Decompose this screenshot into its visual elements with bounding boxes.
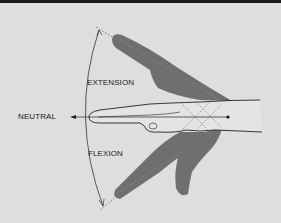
flexion-limit-line (100, 195, 118, 210)
neutral-arrowhead (70, 115, 76, 119)
flexion-hand-shape (114, 128, 222, 199)
flexion-label: FLEXION (88, 149, 123, 158)
neutral-label: NEUTRAL (18, 112, 56, 121)
extension-limit-line (96, 27, 114, 38)
extension-label: EXTENSION (87, 78, 134, 87)
extension-hand-shape (112, 34, 232, 101)
diagram-frame: EXTENSION NEUTRAL FLEXION (0, 0, 281, 223)
pivot-point (226, 115, 229, 118)
